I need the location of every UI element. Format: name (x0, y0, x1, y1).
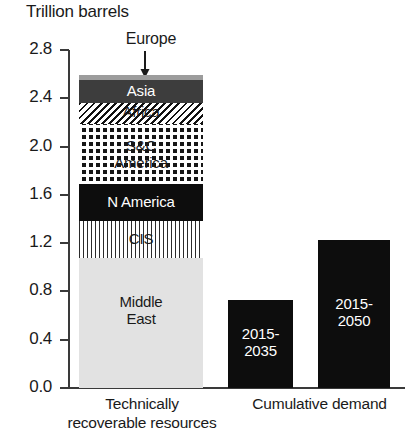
y-axis-tick-mark (60, 146, 69, 148)
y-axis-tick-mark (60, 387, 69, 389)
demand-bar-2050[interactable]: 2015-2050 (318, 240, 390, 388)
category-caption-technically-recoverable-resources: Technically recoverable resources (28, 394, 256, 433)
y-axis-tick-label: 2.4 (8, 87, 52, 107)
demand-bar-label-line-1: 2015- (228, 325, 293, 342)
y-axis-tick-label: 0.4 (8, 329, 52, 349)
demand-bar-label: 2015-2050 (318, 295, 390, 330)
y-axis-tick-label: 2.0 (8, 136, 52, 156)
caption-line-2: recoverable resources (28, 413, 256, 432)
chart-container: Trillion barrels 2.82.42.01.61.20.80.40.… (0, 0, 409, 444)
y-axis-tick-label: 0.8 (8, 280, 52, 300)
y-axis-ticks: 2.82.42.01.61.20.80.40.0 (0, 0, 70, 444)
demand-bar-2035[interactable]: 2015-2035 (228, 300, 293, 388)
y-axis-tick-mark (60, 242, 69, 244)
europe-annotation-label: Europe (96, 30, 206, 48)
y-axis-tick-mark (60, 290, 69, 292)
stacked-bar-technically-recoverable-resources[interactable]: AsiaAfricaS&CAmericaN AmericaCISMiddleEa… (79, 75, 203, 388)
y-axis-tick-mark (60, 49, 69, 51)
demand-bar-label-line-1: 2015- (318, 295, 390, 312)
y-axis-tick-mark (60, 97, 69, 99)
caption-line-1: Cumulative demand (232, 394, 407, 413)
stack-segment-label: N America (79, 194, 203, 209)
y-axis-tick-label: 1.2 (8, 232, 52, 252)
demand-bar-label-line-2: 2035 (228, 342, 293, 359)
y-axis-tick-mark (60, 339, 69, 341)
caption-line-1: Technically (28, 394, 256, 413)
stack-segment-label: S&CAmerica (79, 137, 203, 171)
demand-bar-label-line-2: 2050 (318, 312, 390, 329)
y-axis-tick-label: 2.8 (8, 39, 52, 59)
stack-segment-label: Asia (79, 83, 203, 98)
stack-segment-label: CIS (79, 231, 203, 246)
category-caption-cumulative-demand: Cumulative demand (232, 394, 407, 413)
y-axis-tick-label: 1.6 (8, 184, 52, 204)
demand-bar-label: 2015-2035 (228, 325, 293, 360)
stack-segment-label: MiddleEast (79, 293, 203, 327)
stack-segment-label: Africa (79, 104, 203, 119)
y-axis-tick-mark (60, 194, 69, 196)
